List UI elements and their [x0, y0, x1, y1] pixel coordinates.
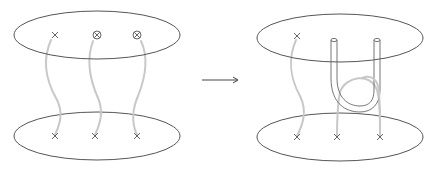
left-strands — [46, 40, 145, 135]
left-figure — [14, 11, 180, 160]
right-strands — [291, 40, 380, 136]
tube-inner-wall — [337, 40, 374, 106]
tube-end-icon — [374, 38, 380, 41]
right-bottom-disk — [257, 113, 423, 161]
right-strand-1 — [291, 40, 304, 136]
right-figure — [257, 14, 423, 161]
tube-end-icon — [331, 38, 337, 41]
left-bottom-disk — [14, 112, 180, 160]
cross-icon — [294, 33, 300, 39]
diagram-canvas — [0, 0, 435, 174]
right-strand-2-front — [362, 77, 380, 136]
cross-icon — [52, 32, 58, 38]
circled-cross-icon — [93, 31, 101, 39]
arrow-icon — [202, 77, 238, 83]
left-strand-2 — [89, 41, 101, 135]
circled-cross-icon — [133, 31, 141, 39]
right-top-disk — [257, 14, 423, 62]
